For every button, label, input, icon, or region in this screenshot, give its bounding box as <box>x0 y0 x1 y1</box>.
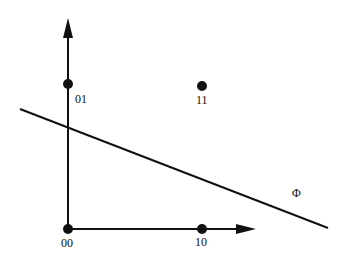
point-10 <box>197 224 207 234</box>
label-10: 10 <box>195 236 207 248</box>
xor-diagram <box>0 0 343 259</box>
x-axis-arrow-icon <box>236 224 256 234</box>
label-01: 01 <box>75 93 87 105</box>
point-11 <box>197 81 207 91</box>
label-11: 11 <box>196 94 208 106</box>
separating-line-phi <box>20 109 328 228</box>
point-01 <box>63 79 73 89</box>
label-phi: Φ <box>292 187 301 199</box>
x-axis <box>68 224 256 234</box>
point-00 <box>63 224 73 234</box>
y-axis-arrow-icon <box>63 18 73 38</box>
y-axis <box>63 18 73 229</box>
label-00: 00 <box>61 237 73 249</box>
